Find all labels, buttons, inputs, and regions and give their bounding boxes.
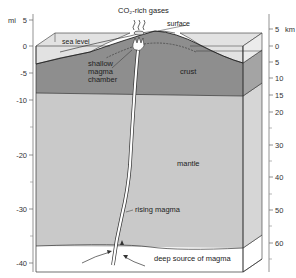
surface-label: surface: [167, 20, 190, 27]
mantle-layer: [36, 83, 262, 249]
sea-level-label: sea level: [62, 38, 90, 45]
right-axis-tick-label: 20: [275, 108, 283, 117]
right-axis-tick-label: 60: [275, 239, 283, 248]
right-axis-tick-label: 5: [275, 25, 279, 34]
volcano-cross-section-diagram: mi 50-5-10-20-30-40 km 50510152030405060: [0, 0, 296, 278]
left-axis-tick-label: -5: [20, 69, 27, 78]
rising-magma-label: rising magma: [135, 205, 181, 214]
shallow-magma-chamber: [133, 37, 144, 51]
left-axis-tick-label: -40: [16, 259, 27, 268]
right-depth-axis: km 50510152030405060: [269, 14, 295, 272]
mantle-label: mantle: [177, 159, 200, 168]
left-axis-tick-label: -30: [16, 205, 27, 214]
left-axis-tick-label: -10: [16, 96, 27, 105]
right-axis-tick-label: 10: [275, 74, 283, 83]
left-axis-tick-label: -20: [16, 151, 27, 160]
right-axis-tick-label: 50: [275, 206, 283, 215]
right-axis-tick-label: 40: [275, 173, 283, 182]
chamber-label: chamber: [88, 75, 118, 84]
left-axis-tick-label: 0: [23, 42, 27, 51]
left-axis-unit: mi: [8, 16, 16, 25]
left-depth-axis: mi 50-5-10-20-30-40: [8, 14, 33, 272]
right-axis-unit: km: [285, 25, 295, 34]
deep-source-label: deep source of magma: [154, 254, 232, 263]
crust-label: crust: [180, 67, 197, 76]
right-axis-tick-label: 15: [275, 91, 283, 100]
right-axis-tick-label: 30: [275, 141, 283, 150]
right-axis-tick-label: 0: [275, 42, 279, 51]
left-axis-tick-label: 5: [23, 16, 27, 25]
gases-label: CO₂-rich gases: [118, 6, 169, 15]
gas-wisp-icons: [133, 20, 145, 30]
right-axis-tick-label: 5: [275, 58, 279, 67]
